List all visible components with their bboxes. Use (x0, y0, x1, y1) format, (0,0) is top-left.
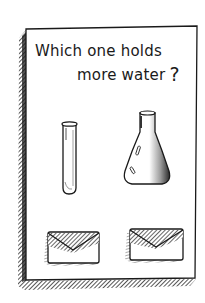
question-line-1: Which one holds (35, 44, 162, 59)
question-line-2-text: more water (77, 66, 165, 84)
question-mark: ? (169, 63, 179, 85)
question-line-2: more water? (77, 64, 180, 83)
envelope-option-1-icon[interactable] (44, 232, 99, 266)
envelope-option-2-icon[interactable] (125, 229, 183, 263)
test-tube-icon (62, 122, 77, 194)
illustration: Which one holds more water? (0, 0, 205, 303)
